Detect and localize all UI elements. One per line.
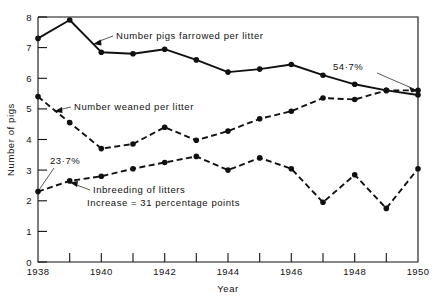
data-point (225, 69, 231, 75)
data-point (130, 166, 136, 172)
data-point (162, 46, 168, 52)
x-tick-label: 1948 (343, 266, 366, 277)
data-point (67, 17, 73, 23)
data-point (320, 72, 326, 78)
data-point (225, 167, 231, 173)
data-point (162, 124, 168, 130)
y-tick-label: 6 (26, 73, 32, 84)
data-point (257, 66, 263, 72)
annotation-weaned-text: Number weaned per litter (74, 101, 194, 112)
x-tick-label: 1946 (280, 266, 303, 277)
data-point (415, 166, 421, 172)
x-axis-ticks (70, 253, 387, 262)
data-point (289, 166, 295, 172)
data-point (225, 128, 231, 134)
data-point (99, 174, 105, 180)
annotation-inbreeding-line2: Increase = 31 percentage points (87, 197, 240, 208)
plot-frame (38, 17, 418, 262)
data-point (384, 206, 390, 212)
data-point (289, 108, 295, 114)
series-weaned (35, 88, 421, 152)
data-point (99, 146, 105, 152)
data-point (162, 160, 168, 166)
data-point (352, 82, 358, 88)
data-point (130, 141, 136, 147)
data-point (320, 95, 326, 101)
annotation-farrowed-text: Number pigs farrowed per litter (116, 30, 263, 41)
data-point (352, 97, 358, 103)
data-point (194, 138, 200, 144)
data-point (35, 94, 41, 100)
data-point (320, 200, 326, 206)
data-point (35, 36, 41, 42)
data-point (99, 49, 105, 55)
y-tick-label: 4 (26, 134, 32, 145)
x-tick-label: 1938 (27, 266, 50, 277)
annotation-inbreeding-line1: Inbreeding of litters (93, 184, 185, 195)
annotation-weaned: Number weaned per litter (54, 101, 194, 113)
data-point (35, 189, 41, 195)
y-tick-label: 8 (26, 12, 32, 23)
y-tick-label: 2 (26, 195, 32, 206)
chart-figure: 8 7 6 5 4 3 2 1 0 1938 1940 (0, 0, 437, 306)
line-chart-svg: 8 7 6 5 4 3 2 1 0 1938 1940 (0, 0, 437, 306)
annotation-pct-start-text: 23·7% (50, 155, 80, 166)
y-axis-ticks (38, 17, 47, 262)
y-tick-label: 5 (26, 103, 32, 114)
x-tick-label: 1950 (407, 266, 430, 277)
y-tick-label: 1 (26, 226, 32, 237)
data-point (289, 62, 295, 68)
data-point (67, 120, 73, 126)
x-tick-label: 1942 (153, 266, 176, 277)
annotation-pct-end-text: 54·7% (333, 61, 363, 72)
annotation-farrowed: Number pigs farrowed per litter (93, 30, 263, 46)
x-tick-label: 1940 (90, 266, 113, 277)
data-point (257, 155, 263, 161)
data-point (130, 51, 136, 57)
data-point (352, 172, 358, 178)
series-weaned-line (38, 90, 418, 148)
y-tick-label: 7 (26, 42, 32, 53)
data-point (194, 154, 200, 160)
annotation-inbreeding: Inbreeding of litters Increase = 31 perc… (70, 181, 240, 208)
data-point (194, 57, 200, 63)
data-point (257, 116, 263, 122)
y-tick-label: 3 (26, 165, 32, 176)
x-axis-title: Year (217, 283, 239, 294)
x-tick-label: 1944 (217, 266, 240, 277)
x-axis-tick-labels: 1938 1940 1942 1944 1946 1948 1950 (27, 266, 430, 277)
data-point (384, 88, 390, 94)
y-axis-tick-labels: 8 7 6 5 4 3 2 1 0 (26, 12, 32, 268)
y-axis-title: Number of pigs (5, 103, 16, 176)
